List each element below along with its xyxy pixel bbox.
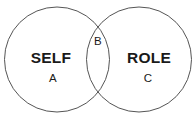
region-label-a: A [49,73,57,85]
region-label-c: C [144,73,153,85]
set-label-role: ROLE [127,50,171,66]
venn-diagram: SELF ROLE A B C [0,0,196,120]
region-label-b: B [94,36,102,48]
set-label-self: SELF [31,50,71,66]
